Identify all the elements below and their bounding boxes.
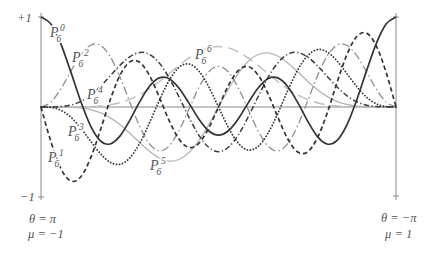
y-label-minus-one: −1 bbox=[20, 190, 35, 204]
y-label-plus-one: +1 bbox=[17, 11, 32, 25]
label-sub: 6 bbox=[79, 59, 84, 69]
label-p6-1: P 6 1 bbox=[47, 148, 64, 169]
label-sup: 6 bbox=[207, 44, 212, 54]
label-sup: 2 bbox=[84, 48, 89, 58]
x-right-mu-label: μ = 1 bbox=[384, 227, 412, 241]
label-p6-5: P 6 5 bbox=[149, 156, 166, 177]
x-right-theta-label: θ = −π bbox=[381, 211, 417, 225]
legendre-plot: +1 −1 θ = π μ = −1 θ = −π μ = 1 P 6 0 P … bbox=[0, 0, 433, 254]
label-sub: 6 bbox=[55, 159, 60, 169]
label-sub: 6 bbox=[94, 96, 99, 106]
x-left-mu-label: μ = −1 bbox=[27, 227, 64, 241]
label-sup: 5 bbox=[161, 156, 166, 166]
label-sup: 4 bbox=[98, 85, 103, 95]
label-sup: 3 bbox=[78, 122, 84, 132]
label-p6-4: P 6 4 bbox=[86, 85, 103, 106]
curve-p6-0 bbox=[41, 17, 396, 144]
x-left-theta-label: θ = π bbox=[29, 212, 57, 226]
label-sub: 6 bbox=[202, 56, 207, 66]
label-sup: 1 bbox=[59, 148, 64, 158]
label-p6-3: P 6 3 bbox=[67, 122, 84, 143]
label-sup: 0 bbox=[60, 23, 65, 33]
label-p6-6: P 6 6 bbox=[194, 44, 212, 66]
label-sub: 6 bbox=[57, 34, 62, 44]
label-sub: 6 bbox=[157, 167, 162, 177]
label-sub: 6 bbox=[75, 133, 80, 143]
label-p6-0: P 6 0 bbox=[49, 23, 65, 44]
